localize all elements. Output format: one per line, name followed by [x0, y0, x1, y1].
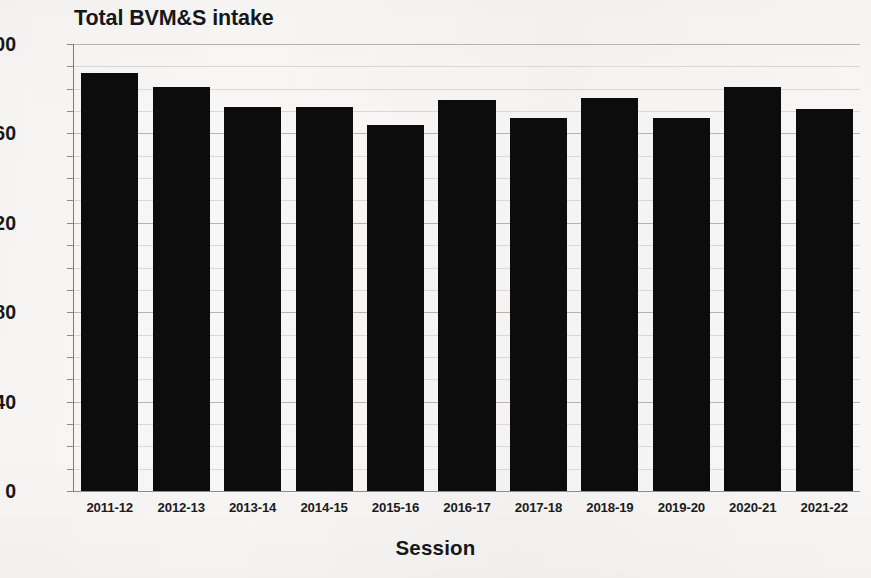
- y-tick-label: 120: [0, 211, 16, 234]
- x-tick-label: 2020-21: [729, 500, 776, 515]
- bar: [796, 109, 853, 491]
- gridline: [74, 66, 860, 67]
- bar: [581, 98, 638, 491]
- x-tick-label: 2014-15: [300, 500, 347, 515]
- bar: [81, 73, 138, 491]
- chart-title: Total BVM&S intake: [74, 6, 274, 31]
- y-tick-label: 40: [0, 390, 16, 413]
- x-tick-label: 2011-12: [86, 500, 133, 515]
- gridline: [74, 44, 860, 45]
- bar: [724, 87, 781, 492]
- bar: [224, 107, 281, 491]
- bar: [510, 118, 567, 491]
- axis-baseline: [74, 491, 860, 492]
- bar: [153, 87, 210, 492]
- y-tick-label: 200: [0, 33, 16, 56]
- x-tick-label: 2015-16: [372, 500, 419, 515]
- bar: [296, 107, 353, 491]
- bar: [653, 118, 710, 491]
- x-tick-label: 2017-18: [515, 500, 562, 515]
- x-tick-label: 2019-20: [658, 500, 705, 515]
- x-tick-label: 2021-22: [801, 500, 848, 515]
- x-tick-label: 2012-13: [158, 500, 205, 515]
- plot-area: [74, 44, 860, 491]
- y-tick-label: 80: [0, 301, 16, 324]
- x-tick-label: 2013-14: [229, 500, 276, 515]
- y-axis: 04080120160200: [0, 0, 74, 578]
- y-tick-label: 160: [0, 122, 16, 145]
- bar: [367, 125, 424, 492]
- x-tick-label: 2016-17: [443, 500, 490, 515]
- y-tick-label: 0: [5, 480, 16, 503]
- bar: [438, 100, 495, 491]
- x-tick-label: 2018-19: [586, 500, 633, 515]
- x-axis-title: Session: [0, 536, 871, 560]
- x-axis-tick-labels: 2011-122012-132013-142014-152015-162016-…: [74, 500, 860, 524]
- bar-chart: Total BVM&S intake 04080120160200 2011-1…: [0, 0, 871, 578]
